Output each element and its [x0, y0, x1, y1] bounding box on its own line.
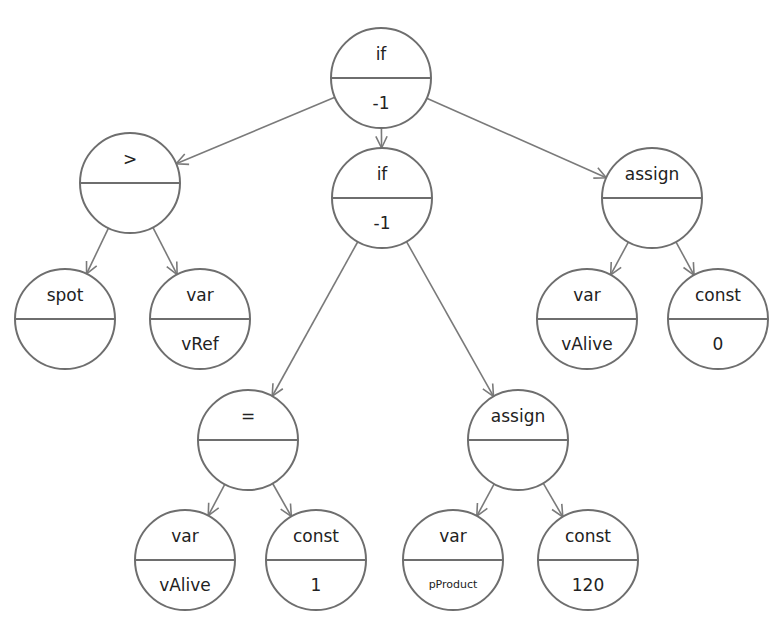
node-label-top: if: [377, 164, 389, 184]
edge-eq-to-var-valive-b: [208, 484, 225, 515]
edge-assign-right-to-const-0: [676, 242, 694, 275]
node-label-top: const: [293, 526, 339, 546]
node-label-top: assign: [491, 406, 545, 426]
node-label-top: var: [171, 526, 198, 546]
tree-node-var-valive-b: varvAlive: [135, 510, 235, 610]
node-label-bottom: vRef: [181, 334, 220, 354]
syntax-tree-diagram: if-1>if-1assignspotvarvRefvarvAliveconst…: [0, 0, 781, 619]
edge-gt-to-var-vref: [153, 227, 177, 274]
node-label-bottom: -1: [374, 213, 391, 233]
node-label-top: >: [123, 149, 137, 169]
edge-assign-bottom-to-var-pproduct: [477, 484, 494, 516]
edge-assign-bottom-to-const-120: [543, 483, 563, 517]
tree-node-eq: =: [198, 390, 298, 490]
node-label-top: const: [695, 285, 741, 305]
tree-node-assign-bottom: assign: [468, 390, 568, 490]
node-label-bottom: pProduct: [429, 578, 478, 591]
tree-node-const-1: const1: [266, 510, 366, 610]
arrowhead-icon: [552, 504, 563, 517]
node-label-bottom: vAlive: [159, 575, 211, 595]
node-label-top: if: [376, 44, 388, 64]
tree-node-assign-right: assign: [602, 148, 702, 248]
node-label-bottom: -1: [373, 93, 390, 113]
tree-node-const-0: const0: [668, 269, 768, 369]
edge-root-if-to-assign-right: [427, 98, 607, 178]
node-label-bottom: vAlive: [561, 334, 613, 354]
edge-mid-if-to-assign-bottom: [406, 242, 493, 397]
tree-node-var-valive-r: varvAlive: [537, 269, 637, 369]
node-label-top: var: [573, 285, 600, 305]
node-label-bottom: 120: [572, 575, 604, 595]
node-label-top: const: [565, 526, 611, 546]
edge-mid-if-to-eq: [272, 242, 358, 397]
node-label-top: assign: [625, 164, 679, 184]
node-label-top: =: [241, 406, 255, 426]
edge-root-if-to-mid-if: [376, 128, 387, 148]
tree-node-const-120: const120: [538, 510, 638, 610]
edge-assign-right-to-var-valive-r: [611, 242, 629, 275]
node-label-bottom: 0: [713, 334, 724, 354]
tree-node-spot: spot: [15, 269, 115, 369]
tree-node-gt: >: [80, 133, 180, 233]
node-label-top: var: [186, 285, 213, 305]
edge-gt-to-spot: [87, 228, 109, 274]
node-label-top: spot: [47, 285, 84, 305]
edge-root-if-to-gt: [176, 97, 335, 164]
node-label-top: var: [439, 526, 466, 546]
tree-node-mid-if: if-1: [332, 148, 432, 248]
tree-node-var-pproduct: varpProduct: [403, 510, 503, 610]
node-label-bottom: 1: [311, 575, 322, 595]
tree-node-root-if: if-1: [331, 28, 431, 128]
tree-nodes: if-1>if-1assignspotvarvRefvarvAliveconst…: [15, 28, 768, 610]
edge-eq-to-const-1: [273, 484, 292, 517]
tree-node-var-vref: varvRef: [150, 269, 250, 369]
